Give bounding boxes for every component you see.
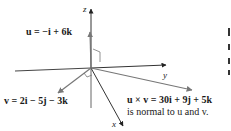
cropped-text-fragment — [228, 70, 230, 75]
x-axis-label: x — [112, 120, 116, 129]
y-axis-label: y — [163, 71, 167, 80]
y-axis — [91, 65, 166, 68]
vector-u-label: u = −i + 6k — [26, 27, 72, 37]
z-axis-label: z — [83, 5, 87, 14]
vector-v-label: v = 2i − 5j − 3k — [4, 96, 68, 106]
normal-annotation: is normal to u and v. — [127, 107, 209, 117]
cropped-text-fragment — [228, 28, 230, 36]
vector-uxv-label: u × v = 30i + 9j + 5k — [127, 95, 212, 105]
cropped-text-fragment — [228, 44, 230, 50]
y-axis-neg — [15, 68, 91, 71]
right-angle-marker-u — [93, 49, 100, 62]
x-axis — [91, 68, 123, 126]
vector-v — [58, 68, 91, 93]
cropped-text-fragment — [228, 58, 230, 64]
vector-uxv — [91, 68, 192, 90]
